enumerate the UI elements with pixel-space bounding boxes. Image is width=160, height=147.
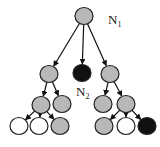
node-f-gray [94, 96, 112, 113]
node-m-black [138, 118, 156, 135]
edge-g-k [110, 110, 120, 120]
label-n2: N2 [76, 84, 89, 101]
edge-a-d [43, 82, 47, 96]
edge-root-c [87, 24, 106, 66]
edge-root-b [82, 24, 83, 64]
edge-c-f [105, 82, 108, 95]
node-g-gray [117, 96, 135, 113]
edge-a-e [52, 82, 58, 96]
edge-g-m [132, 110, 141, 119]
edge-root-a [54, 23, 80, 66]
node-c-gray [101, 66, 119, 83]
node-i-white [30, 118, 48, 135]
node-j-gray [51, 118, 69, 135]
edge-c-g [114, 82, 122, 97]
edge-d-h [26, 111, 35, 120]
label-n1: N1 [108, 12, 121, 29]
node-h-white [10, 118, 28, 135]
node-d-gray [32, 97, 50, 114]
node-b-black [73, 65, 91, 82]
tree-nodes [10, 8, 156, 135]
node-k-gray [95, 118, 113, 135]
edge-d-j [47, 111, 54, 119]
tree-diagram: N1 N2 [0, 0, 160, 147]
node-a-gray [40, 66, 58, 83]
node-l-white [117, 118, 135, 135]
node-e-gray [53, 96, 71, 113]
node-root-gray [75, 8, 93, 25]
